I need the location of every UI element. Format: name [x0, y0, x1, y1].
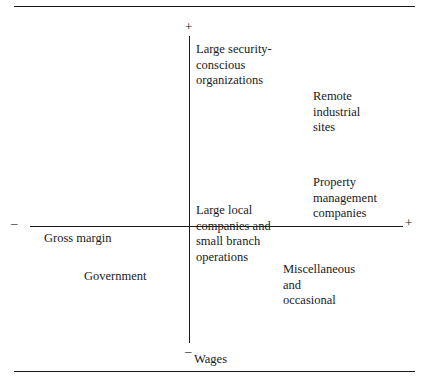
segment-label-remote-industrial-sites: Remote industrial sites	[313, 89, 413, 136]
vertical-axis-label: Wages	[194, 352, 227, 367]
segment-label-large-local-companies-and-small-branch-operations: Large local companies and small branch o…	[196, 203, 300, 265]
horizontal-axis-negative-sign: –	[11, 216, 18, 229]
segment-label-large-security-conscious-organizations: Large security- conscious organizations	[196, 42, 304, 89]
quadrant-diagram-figure: – + + – Gross margin Wages Large securit…	[0, 0, 424, 381]
vertical-axis-line	[189, 36, 190, 343]
segment-label-government: Government	[84, 269, 194, 285]
segment-label-miscellaneous-and-occasional: Miscellaneous and occasional	[283, 262, 387, 309]
segment-label-property-management-companies: Property management companies	[313, 175, 413, 222]
figure-bottom-rule	[14, 371, 415, 372]
vertical-axis-negative-sign: –	[185, 344, 192, 357]
vertical-axis-positive-sign: +	[185, 20, 192, 33]
horizontal-axis-label: Gross margin	[44, 231, 111, 246]
figure-top-rule	[14, 6, 415, 7]
